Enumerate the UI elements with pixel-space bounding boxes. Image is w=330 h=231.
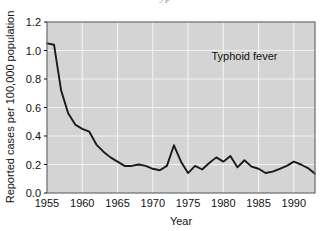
y-tick-label: 0.4 [26,130,41,142]
x-tick-label: 1980 [211,197,235,209]
y-tick-label: 0.8 [26,73,41,85]
typhoid-fever-line-chart: 0.00.20.40.60.81.01.2 195519601965197019… [0,0,330,231]
x-tick-label: 1965 [105,197,129,209]
x-tick-label: 1975 [176,197,200,209]
series-annotation-label: Typhoid fever [211,50,277,62]
y-axis-tick-labels: 0.00.20.40.60.81.01.2 [26,16,41,199]
y-tick-label: 1.2 [26,16,41,28]
y-tick-label: 0.2 [26,159,41,171]
figure-container: yp 0.00.20.40.60.81.01.2 195519601965197… [0,0,330,231]
x-tick-label: 1990 [282,197,306,209]
x-axis-tick-labels: 19551960196519701975198019851990 [35,197,306,209]
y-axis-title: Reported cases per 100,000 population [4,11,16,204]
x-axis-title: Year [170,215,193,227]
x-tick-label: 1955 [35,197,59,209]
y-tick-label: 1.0 [26,45,41,57]
y-tick-label: 0.6 [26,102,41,114]
x-tick-label: 1970 [141,197,165,209]
x-tick-label: 1960 [70,197,94,209]
partial-caption-sliver: yp [0,0,330,3]
x-tick-label: 1985 [246,197,270,209]
